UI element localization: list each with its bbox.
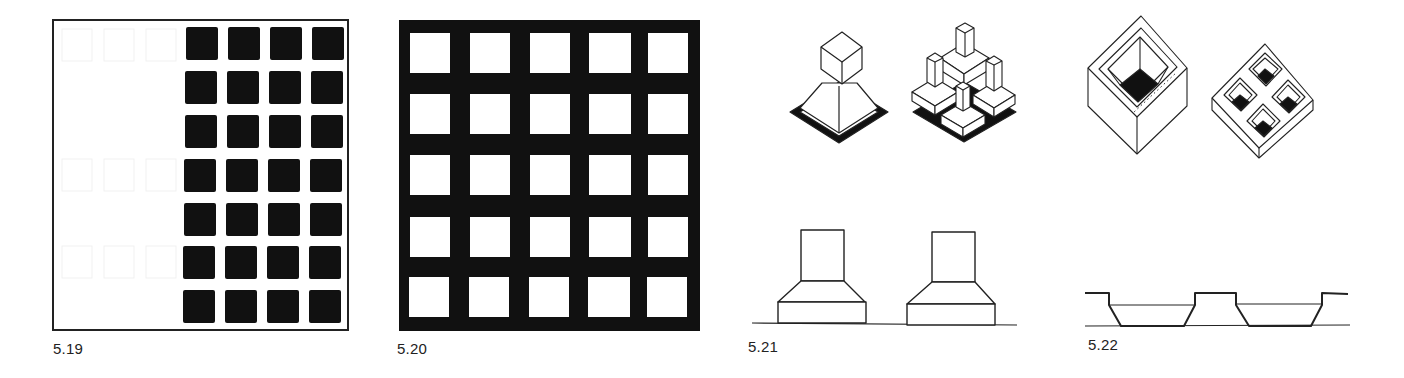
- elevation-drawings: [752, 230, 1017, 325]
- figure-5-21: [740, 10, 1040, 340]
- caption-5-22: 5.22: [1088, 336, 1118, 353]
- isometric-four-towers: [912, 23, 1016, 142]
- caption-5-20: 5.20: [397, 340, 427, 357]
- figure-5-22: [1080, 10, 1360, 340]
- isometric-single-tower: [790, 32, 888, 143]
- section-drawing: [1085, 293, 1350, 326]
- caption-5-19: 5.19: [53, 340, 83, 357]
- isometric-single-well: [1088, 16, 1187, 154]
- figure-5-19-drawing: [52, 19, 350, 333]
- figure-5-19: [52, 19, 350, 333]
- figure-5-22-drawing: [1080, 10, 1360, 340]
- caption-5-21: 5.21: [748, 338, 778, 355]
- figure-5-20-drawing: [398, 19, 702, 333]
- figure-5-20: [398, 19, 702, 333]
- figure-5-21-drawing: [740, 10, 1040, 340]
- isometric-four-wells: [1212, 44, 1313, 158]
